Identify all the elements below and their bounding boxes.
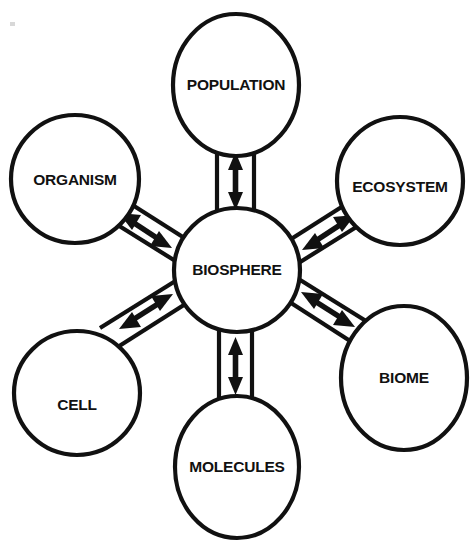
node-biosphere[interactable]: BIOSPHERE (174, 208, 300, 332)
arrow-head-down (228, 377, 243, 395)
node-molecules[interactable]: MOLECULES (175, 396, 299, 538)
connector-biosphere-molecules (219, 326, 252, 400)
node-organism-label: ORGANISM (33, 171, 117, 188)
node-biome-label: BIOME (379, 369, 429, 386)
scan-artifact (10, 22, 15, 26)
node-biome[interactable]: BIOME (341, 306, 467, 450)
biological-organization-diagram: POPULATION ECOSYSTEM BIOME MOLECULES CEL… (0, 0, 474, 547)
node-molecules-label: MOLECULES (189, 458, 285, 475)
diagram-root: POPULATION ECOSYSTEM BIOME MOLECULES CEL… (0, 0, 474, 547)
connector-biosphere-population (217, 150, 254, 212)
channel-rail-upper (100, 280, 177, 328)
node-organism[interactable]: ORGANISM (11, 115, 139, 243)
arrow-head-up (228, 337, 243, 355)
node-population-label: POPULATION (187, 76, 285, 93)
node-cell-shape[interactable] (14, 331, 140, 455)
node-population[interactable]: POPULATION (173, 14, 299, 156)
node-ecosystem[interactable]: ECOSYSTEM (337, 117, 463, 245)
node-cell[interactable]: CELL (14, 331, 140, 455)
node-biosphere-label: BIOSPHERE (192, 261, 282, 278)
channel-rail-upper (297, 278, 374, 326)
node-ecosystem-label: ECOSYSTEM (352, 178, 448, 195)
node-cell-label: CELL (57, 396, 97, 413)
